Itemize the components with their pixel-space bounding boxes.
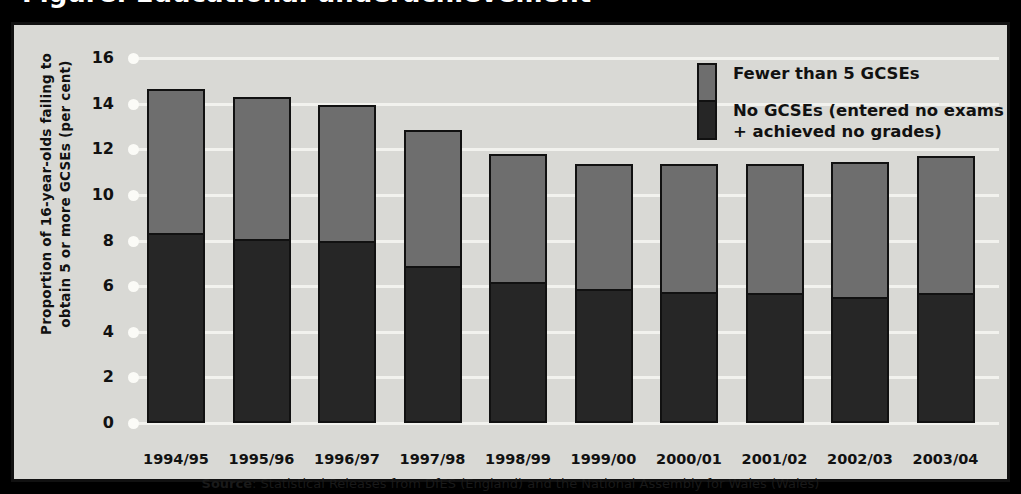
x-label-2003-04: 2003/04 (905, 451, 987, 467)
bar-segment-no-gcses (919, 293, 973, 421)
bar-2000-01 (660, 164, 718, 423)
y-tick-label-2: 2 (54, 367, 114, 386)
bar-segment-no-gcses (235, 239, 289, 422)
gridline-knob-12 (128, 144, 139, 155)
bar-segment-fewer-than-5 (577, 166, 631, 293)
bar-segment-fewer-than-5 (919, 158, 973, 297)
x-label-1995-96: 1995/96 (221, 451, 303, 467)
gridline-knob-0 (128, 418, 139, 429)
bar-segment-no-gcses (662, 292, 716, 421)
gridline-knob-8 (128, 236, 139, 247)
legend-item-fewer-than-5: Fewer than 5 GCSEs (697, 61, 1004, 84)
y-tick-label-6: 6 (54, 276, 114, 295)
bar-2001-02 (746, 164, 804, 423)
bar-1999-00 (575, 164, 633, 423)
bar-segment-fewer-than-5 (320, 107, 374, 245)
y-tick-label-8: 8 (54, 231, 114, 250)
y-tick-label-14: 14 (54, 94, 114, 113)
x-label-1996-97: 1996/97 (306, 451, 388, 467)
bar-1994-95 (147, 89, 205, 423)
legend-label-no-gcses: No GCSEs (entered no exams + achieved no… (733, 98, 1004, 142)
gridline-knob-16 (128, 53, 139, 64)
bar-1996-97 (318, 105, 376, 423)
y-tick-label-16: 16 (54, 48, 114, 67)
bar-segment-fewer-than-5 (235, 99, 289, 243)
y-tick-label-4: 4 (54, 322, 114, 341)
x-label-1998-99: 1998/99 (477, 451, 559, 467)
plot-area: Proportion of 16-year-olds failing to ob… (14, 25, 1007, 479)
y-tick-label-0: 0 (54, 413, 114, 432)
bar-segment-fewer-than-5 (149, 91, 203, 237)
bar-segment-no-gcses (149, 233, 203, 421)
y-tick-label-12: 12 (54, 139, 114, 158)
bar-2002-03 (831, 162, 889, 423)
x-label-2002-03: 2002/03 (819, 451, 901, 467)
chart-legend: Fewer than 5 GCSEs No GCSEs (entered no … (697, 61, 1004, 156)
gridline-16 (133, 57, 999, 60)
clipped-title-text: Figure: Educational underachievement (22, 0, 591, 8)
x-label-1997-98: 1997/98 (392, 451, 474, 467)
chart-frame: Proportion of 16-year-olds failing to ob… (11, 22, 1010, 482)
bar-segment-fewer-than-5 (491, 156, 545, 286)
bar-segment-fewer-than-5 (833, 164, 887, 301)
gridline-knob-4 (128, 327, 139, 338)
x-label-1994-95: 1994/95 (135, 451, 217, 467)
bar-segment-no-gcses (748, 293, 802, 421)
bar-1998-99 (489, 154, 547, 423)
gridline-knob-6 (128, 281, 139, 292)
bar-2003-04 (917, 156, 975, 423)
bar-segment-fewer-than-5 (406, 132, 460, 270)
y-tick-label-10: 10 (54, 185, 114, 204)
gridline-knob-14 (128, 99, 139, 110)
source-prefix: Source (202, 476, 252, 491)
legend-item-no-gcses: No GCSEs (entered no exams + achieved no… (697, 98, 1004, 142)
chart-page: Figure: Educational underachievement Pro… (0, 0, 1021, 494)
bar-segment-no-gcses (577, 289, 631, 421)
top-black-band: Figure: Educational underachievement (0, 0, 1021, 18)
bar-segment-fewer-than-5 (748, 166, 802, 297)
bar-segment-no-gcses (491, 282, 545, 421)
x-label-1999-00: 1999/00 (563, 451, 645, 467)
bar-segment-no-gcses (833, 297, 887, 421)
x-label-2000-01: 2000/01 (648, 451, 730, 467)
bar-segment-fewer-than-5 (662, 166, 716, 296)
legend-swatch-grey-icon (697, 63, 717, 103)
x-label-2001-02: 2001/02 (734, 451, 816, 467)
legend-swatch-dark-icon (697, 100, 717, 140)
legend-label-fewer-than-5: Fewer than 5 GCSEs (733, 61, 1004, 84)
bar-segment-no-gcses (320, 241, 374, 421)
bar-1995-96 (233, 97, 291, 423)
gridline-knob-10 (128, 190, 139, 201)
source-text: : Statistical Releases from DfES (Englan… (252, 476, 819, 491)
bar-segment-no-gcses (406, 266, 460, 421)
source-note: Source: Statistical Releases from DfES (… (14, 476, 1007, 491)
gridline-knob-2 (128, 372, 139, 383)
bar-1997-98 (404, 130, 462, 423)
